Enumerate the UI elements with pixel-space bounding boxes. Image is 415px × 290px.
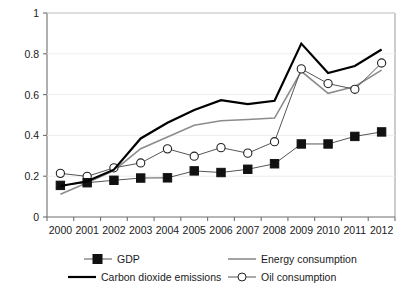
data-point-marker <box>270 160 278 168</box>
y-axis-ticks <box>43 13 47 217</box>
x-tick-label: 2004 <box>154 225 181 236</box>
x-tick-label: 2006 <box>208 225 235 236</box>
data-point-marker <box>110 176 118 184</box>
x-tick-label: 2011 <box>341 225 368 236</box>
legend-label-carbon-dioxide-emissions: Carbon dioxide emissions <box>101 272 221 283</box>
legend-item-carbon-dioxide-emissions: Carbon dioxide emissions <box>67 270 221 284</box>
x-tick-label: 2010 <box>315 225 342 236</box>
x-tick-label: 2003 <box>127 225 154 236</box>
x-tick-label: 2002 <box>101 225 128 236</box>
data-point-marker <box>217 144 225 152</box>
legend-marker-gray-line <box>227 253 257 265</box>
chart-figure: 00.20.40.60.81 2000200120022003200420052… <box>0 0 415 290</box>
chart-legend: GDP Carbon dioxide emissions Energy cons… <box>55 250 395 286</box>
legend-marker-thick-black-line <box>67 271 97 283</box>
x-tick-label: 2008 <box>261 225 288 236</box>
x-tick-label: 2000 <box>47 225 74 236</box>
data-point-marker <box>297 140 305 148</box>
data-point-marker <box>136 174 144 182</box>
data-point-marker <box>297 65 305 73</box>
data-point-marker <box>56 169 64 177</box>
data-point-marker <box>351 85 359 93</box>
x-tick-label: 2001 <box>74 225 101 236</box>
plot-background <box>47 13 395 217</box>
data-point-marker <box>351 132 359 140</box>
data-point-marker <box>190 167 198 175</box>
legend-label-gdp: GDP <box>117 254 140 265</box>
plot-frame <box>47 13 395 217</box>
data-point-marker <box>163 145 171 153</box>
data-point-marker <box>378 59 386 67</box>
data-point-marker <box>163 174 171 182</box>
x-tick-label: 2012 <box>368 225 395 236</box>
y-tick-label: 0.2 <box>0 171 39 182</box>
y-tick-label: 0.4 <box>0 130 39 141</box>
data-point-marker <box>324 79 332 87</box>
data-point-marker <box>270 138 278 146</box>
data-point-marker <box>217 168 225 176</box>
x-tick-label: 2007 <box>234 225 261 236</box>
legend-label-oil-consumption: Oil consumption <box>261 272 336 283</box>
data-point-marker <box>190 152 198 160</box>
x-tick-label: 2005 <box>181 225 208 236</box>
y-tick-label: 0.8 <box>0 49 39 60</box>
x-tick-label: 2009 <box>288 225 315 236</box>
line-chart-canvas <box>0 0 415 290</box>
data-point-marker <box>244 149 252 157</box>
legend-marker-open-circle <box>227 271 257 283</box>
data-point-marker <box>137 159 145 167</box>
x-axis-ticks <box>47 217 395 221</box>
y-tick-label: 0.6 <box>0 90 39 101</box>
legend-item-gdp: GDP <box>83 252 140 266</box>
data-point-marker <box>324 140 332 148</box>
y-tick-label: 0 <box>0 212 39 223</box>
legend-item-energy-consumption: Energy consumption <box>227 252 357 266</box>
legend-label-energy-consumption: Energy consumption <box>261 254 357 265</box>
data-point-marker <box>244 165 252 173</box>
legend-item-oil-consumption: Oil consumption <box>227 270 336 284</box>
y-tick-label: 1 <box>0 8 39 19</box>
legend-marker-filled-square <box>83 253 113 265</box>
data-point-marker <box>377 128 385 136</box>
